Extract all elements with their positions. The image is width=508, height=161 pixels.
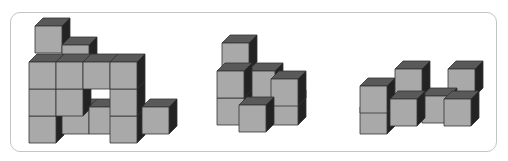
cube-figures [0,0,508,161]
cube [444,91,479,126]
cube [110,54,145,89]
cube [271,71,306,106]
cube [217,63,252,98]
figure-right [360,61,483,134]
cube [239,97,274,132]
cube [142,99,177,134]
cube [390,91,425,126]
figure-left [29,18,177,143]
figure-middle [217,35,306,132]
